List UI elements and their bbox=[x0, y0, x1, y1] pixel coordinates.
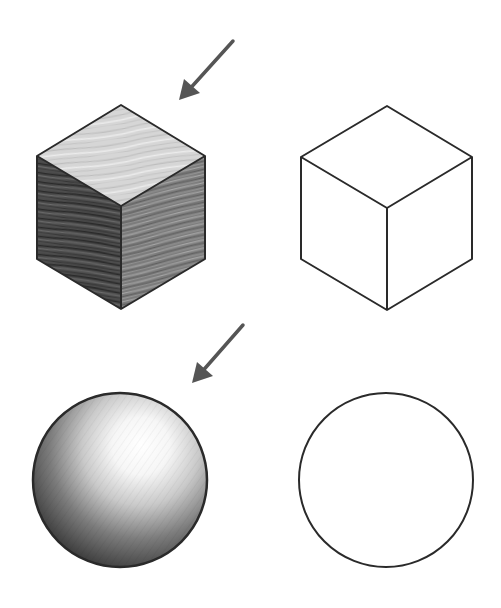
shaded-cube bbox=[37, 105, 205, 309]
shaded-sphere bbox=[33, 393, 207, 567]
light-direction-arrow-sphere bbox=[192, 325, 243, 383]
light-direction-arrow-cube bbox=[179, 41, 233, 100]
outline-cube bbox=[301, 106, 472, 310]
figure-canvas bbox=[0, 0, 501, 608]
illustration bbox=[0, 0, 501, 608]
outline-sphere bbox=[299, 393, 473, 567]
